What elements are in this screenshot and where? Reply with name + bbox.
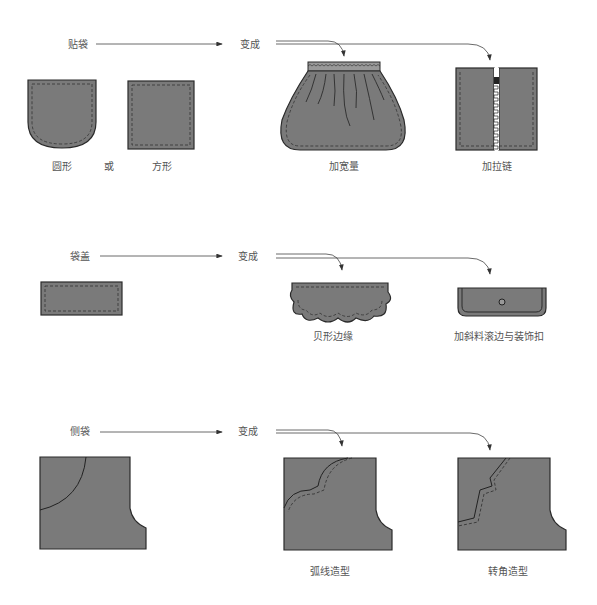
bound-flap-shape (458, 288, 546, 316)
becomes-label: 变成 (238, 425, 258, 437)
caption-square: 方形 (152, 160, 172, 172)
branch-arrow (276, 430, 342, 446)
source-label-patch-pocket: 贴袋 (68, 38, 88, 50)
row-patch-pocket: 贴袋 变成 圆形 或 方形 (28, 38, 537, 172)
becomes-label: 变成 (238, 250, 258, 262)
round-patch-pocket-shape (28, 80, 96, 148)
row-side-pocket: 侧袋 变成 弧线造型 转角造型 (40, 425, 566, 577)
caption-curved: 弧线造型 (310, 565, 350, 577)
branch-arrow (276, 254, 342, 270)
caption-or: 或 (104, 161, 114, 172)
branch-arrow (276, 258, 490, 274)
zipper-pocket-shape (456, 68, 537, 150)
branch-arrow (276, 433, 490, 450)
caption-angled: 转角造型 (488, 565, 528, 577)
square-patch-pocket-shape (128, 81, 194, 149)
caption-gathered: 加宽量 (329, 160, 359, 172)
row-pocket-flap: 袋盖 变成 贝形边缘 加斜料滚边与装饰扣 (41, 250, 546, 342)
button-icon (499, 299, 505, 305)
gathered-pocket-shape (281, 62, 405, 150)
becomes-label: 变成 (240, 38, 260, 50)
caption-round: 圆形 (52, 161, 72, 172)
source-label-pocket-flap: 袋盖 (70, 250, 90, 262)
scalloped-flap-shape (290, 283, 390, 322)
caption-bound-flap: 加斜料滚边与装饰扣 (454, 330, 544, 342)
curved-side-pocket-shape (284, 458, 392, 550)
source-label-side-pocket: 侧袋 (70, 425, 90, 437)
branch-arrow (276, 41, 344, 56)
caption-zipper: 加拉链 (482, 160, 512, 172)
branch-arrow (276, 44, 490, 60)
rect-flap-shape (41, 282, 122, 315)
caption-scalloped: 贝形边缘 (313, 330, 353, 342)
angled-side-pocket-shape (458, 458, 566, 550)
side-pocket-shape (40, 457, 146, 549)
